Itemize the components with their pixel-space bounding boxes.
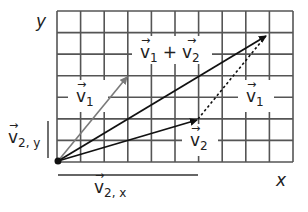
svg-text:→: → [9, 119, 18, 132]
vector-addition-diagram: y x v1+v2 → → v1 → v1 → v2 → v2, x → v2,… [0, 0, 308, 212]
svg-text:→: → [141, 34, 150, 47]
svg-text:→: → [77, 78, 86, 91]
label-v2x: v2, x → [94, 169, 126, 200]
y-axis-label: y [35, 11, 47, 31]
svg-text:→: → [95, 169, 104, 182]
svg-text:→: → [187, 34, 196, 47]
svg-text:→: → [247, 78, 256, 91]
label-v2y: v2, y → [8, 119, 40, 150]
x-axis-label: x [275, 170, 287, 190]
svg-text:→: → [191, 122, 200, 135]
origin-point [55, 158, 62, 165]
